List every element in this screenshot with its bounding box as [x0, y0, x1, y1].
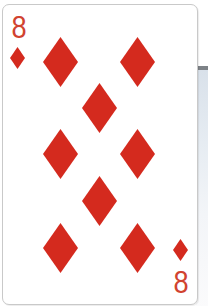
- scene: 8 8: [0, 0, 208, 306]
- rank-index-top: 8: [11, 14, 28, 40]
- rank-index-bottom: 8: [173, 269, 190, 295]
- playing-card-eight-of-diamonds: 8 8: [2, 4, 198, 305]
